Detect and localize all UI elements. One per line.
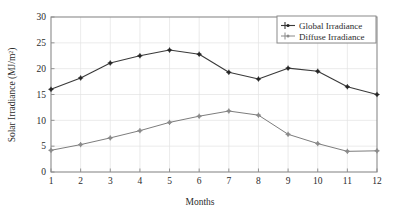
legend-label-global-irradiance: Global Irradiance <box>299 21 362 31</box>
data-point <box>257 78 260 81</box>
data-point <box>198 53 201 56</box>
x-tick-label-6: 6 <box>197 176 202 186</box>
series-line-global-irradiance <box>51 50 377 94</box>
x-tick-label-3: 3 <box>108 176 113 186</box>
data-point <box>168 121 171 124</box>
x-tick-label-1: 1 <box>49 176 54 186</box>
y-tick-label-20: 20 <box>37 64 47 74</box>
y-tick-label-15: 15 <box>37 90 47 100</box>
data-point <box>138 54 141 57</box>
data-point <box>316 142 319 145</box>
data-point <box>198 115 201 118</box>
data-point <box>227 71 230 74</box>
chart-legend[interactable]: Global Irradiance Diffuse Irradiance <box>277 16 376 43</box>
x-tick-label-12: 12 <box>372 176 382 186</box>
solar-irradiance-chart: 051015202530 123456789101112 Months Sola… <box>0 0 402 221</box>
legend-label-diffuse-irradiance: Diffuse Irradiance <box>299 32 365 42</box>
y-axis-title: Solar Irradiance (MJ/m²) <box>7 48 18 143</box>
y-tick-label-10: 10 <box>37 116 47 126</box>
data-point <box>168 49 171 52</box>
y-tick-label-30: 30 <box>37 12 47 22</box>
x-tick-label-2: 2 <box>78 176 83 186</box>
y-tick-label-0: 0 <box>41 167 46 177</box>
x-tick-label-10: 10 <box>313 176 323 186</box>
chart-canvas: 051015202530 123456789101112 Months Sola… <box>0 0 402 221</box>
data-point <box>109 61 112 64</box>
data-point <box>287 67 290 70</box>
x-tick-label-5: 5 <box>167 176 172 186</box>
data-point <box>227 110 230 113</box>
data-point <box>138 129 141 132</box>
data-point <box>376 93 379 96</box>
x-tick-label-9: 9 <box>286 176 291 186</box>
data-point <box>79 143 82 146</box>
data-point <box>346 150 349 153</box>
series-markers-global-irradiance <box>48 47 379 97</box>
x-axis-tick-labels: 123456789101112 <box>49 176 382 186</box>
x-tick-label-4: 4 <box>138 176 143 186</box>
x-tick-label-11: 11 <box>343 176 352 186</box>
data-point <box>346 85 349 88</box>
data-point <box>109 136 112 139</box>
data-point <box>257 114 260 117</box>
data-point <box>50 88 53 91</box>
y-tick-label-25: 25 <box>37 38 47 48</box>
data-point <box>316 70 319 73</box>
data-point <box>50 149 53 152</box>
data-point <box>287 133 290 136</box>
data-point <box>376 149 379 152</box>
y-axis-tick-labels: 051015202530 <box>37 12 47 177</box>
y-tick-label-5: 5 <box>41 141 46 151</box>
x-tick-label-8: 8 <box>256 176 261 186</box>
series-line-diffuse-irradiance <box>51 111 377 151</box>
x-tick-label-7: 7 <box>226 176 231 186</box>
x-axis-title: Months <box>185 197 214 207</box>
data-point <box>79 76 82 79</box>
